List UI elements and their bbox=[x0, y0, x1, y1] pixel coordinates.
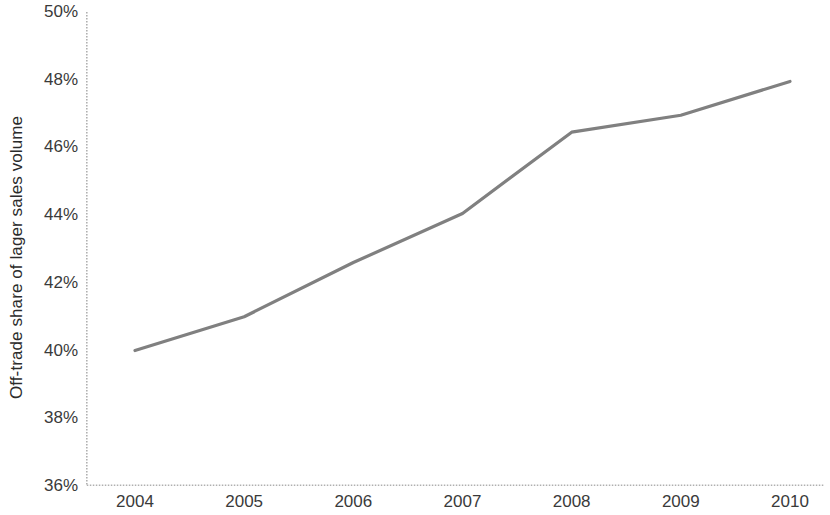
x-axis-tick-label: 2004 bbox=[116, 492, 154, 512]
y-axis-tick-label: 46% bbox=[6, 137, 78, 157]
x-axis-tick-label: 2007 bbox=[444, 492, 482, 512]
y-axis-tick-label: 50% bbox=[6, 2, 78, 22]
y-axis-tick-label: 48% bbox=[6, 70, 78, 90]
y-axis-tick-label: 42% bbox=[6, 273, 78, 293]
x-axis-tick-label: 2010 bbox=[771, 492, 809, 512]
series-line-0 bbox=[135, 81, 790, 350]
x-axis-tick-label: 2009 bbox=[662, 492, 700, 512]
y-axis-tick-label: 40% bbox=[6, 341, 78, 361]
y-axis-tick-label: 44% bbox=[6, 205, 78, 225]
x-axis-tick-label: 2008 bbox=[553, 492, 591, 512]
y-axis-tick-labels: 36%38%40%42%44%46%48%50% bbox=[0, 0, 78, 515]
line-chart: Off-trade share of lager sales volume 36… bbox=[0, 0, 830, 515]
y-axis-tick-label: 38% bbox=[6, 408, 78, 428]
y-axis-tick-label: 36% bbox=[6, 476, 78, 496]
plot-area bbox=[86, 12, 824, 486]
x-axis-tick-label: 2006 bbox=[334, 492, 372, 512]
x-axis-tick-label: 2005 bbox=[225, 492, 263, 512]
data-series-line bbox=[86, 12, 824, 486]
